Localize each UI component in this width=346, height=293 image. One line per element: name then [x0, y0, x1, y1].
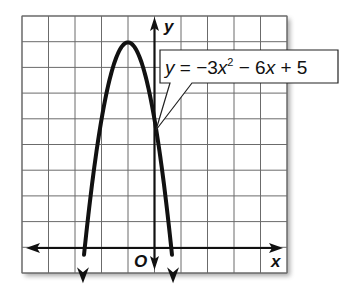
y-axis-label: y	[163, 17, 175, 36]
parabola-chart: y x O y = −3x2 − 6x + 5	[0, 0, 346, 293]
x-axis-label: x	[270, 252, 282, 271]
origin-label: O	[134, 252, 147, 271]
equation-label: y = −3x2 − 6x + 5	[163, 56, 307, 78]
